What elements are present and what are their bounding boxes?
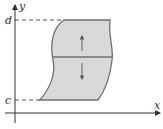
upper-bound-label: d bbox=[5, 14, 12, 27]
type-ii-region-diagram: y x d c bbox=[0, 0, 163, 129]
shaded-region bbox=[40, 20, 112, 100]
x-axis-label: x bbox=[154, 99, 161, 112]
y-axis-label: y bbox=[18, 0, 26, 13]
lower-bound-label: c bbox=[5, 94, 11, 107]
